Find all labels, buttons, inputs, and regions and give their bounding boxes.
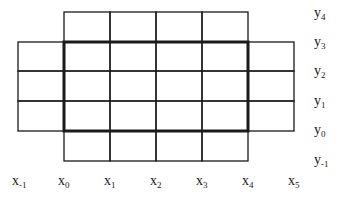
- x-label-0: x0: [58, 174, 70, 192]
- grid-cell: [202, 131, 248, 161]
- x-label--1: x-1: [12, 174, 27, 192]
- grid-cell: [18, 71, 64, 101]
- grid-cell: [64, 71, 110, 101]
- grid-diagram: [0, 0, 347, 200]
- y-label-3: y3: [314, 35, 326, 53]
- y-label-2: y2: [314, 64, 326, 82]
- x-label-5: x5: [288, 174, 300, 192]
- grid-cell: [156, 71, 202, 101]
- grid-cell: [64, 131, 110, 161]
- grid-cell: [202, 12, 248, 42]
- grid-cell: [110, 71, 156, 101]
- grid-cell: [248, 42, 294, 71]
- grid-cell: [110, 42, 156, 71]
- x-label-1: x1: [104, 174, 116, 192]
- x-label-3: x3: [196, 174, 208, 192]
- grid-cell: [248, 71, 294, 101]
- grid-cell: [156, 12, 202, 42]
- grid-cell: [64, 42, 110, 71]
- grid-cell: [202, 71, 248, 101]
- grid-cell: [202, 101, 248, 131]
- grid-cell: [64, 101, 110, 131]
- grid-cell: [18, 101, 64, 131]
- grid-cell: [156, 42, 202, 71]
- y-label-1: y1: [314, 94, 326, 112]
- grid-cell: [248, 101, 294, 131]
- grid-cell: [64, 12, 110, 42]
- grid-cell: [202, 42, 248, 71]
- grid-cell: [156, 101, 202, 131]
- grid-cell: [110, 12, 156, 42]
- y-label--1: y-1: [314, 153, 329, 171]
- y-label-4: y4: [314, 6, 326, 24]
- x-label-2: x2: [150, 174, 162, 192]
- grid-cell: [110, 101, 156, 131]
- x-label-4: x4: [242, 174, 254, 192]
- grid-cell: [110, 131, 156, 161]
- grid-cell: [156, 131, 202, 161]
- y-label-0: y0: [314, 123, 326, 141]
- grid-cell: [18, 42, 64, 71]
